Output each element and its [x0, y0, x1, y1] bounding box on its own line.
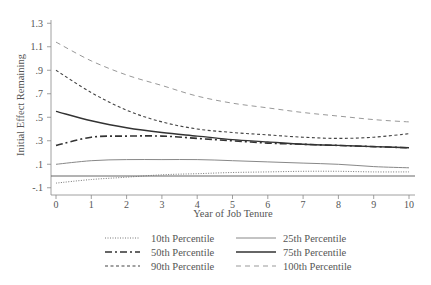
x-axis-title: Year of Job Tenure — [193, 208, 273, 219]
legend-label: 50th Percentile — [151, 247, 215, 258]
x-tick-label: 2 — [124, 199, 129, 210]
legend-item-25th: 25th Percentile — [236, 233, 347, 244]
legend-item-100th: 100th Percentile — [236, 261, 352, 272]
legend-label: 25th Percentile — [283, 233, 347, 244]
series-line-10th-percentile — [56, 171, 409, 183]
legend-item-50th: 50th Percentile — [105, 247, 215, 258]
y-tick-label: .1 — [36, 159, 44, 170]
legend-item-10th: 10th Percentile — [105, 233, 215, 244]
y-tick-label: 1.1 — [31, 41, 44, 52]
series-line-100th-percentile — [56, 42, 409, 122]
y-tick-label: -.1 — [32, 182, 43, 193]
y-tick-label: .3 — [36, 135, 44, 146]
x-tick-label: 1 — [89, 199, 94, 210]
x-tick-label: 9 — [371, 199, 376, 210]
x-tick-label: 0 — [54, 199, 59, 210]
x-tick-label: 7 — [301, 199, 306, 210]
legend-label: 90th Percentile — [151, 261, 215, 272]
y-axis-title: Initial Effect Remaining — [15, 53, 26, 156]
legend-label: 10th Percentile — [151, 233, 215, 244]
legend-label: 75th Percentile — [283, 247, 347, 258]
legend-item-75th: 75th Percentile — [236, 247, 347, 258]
series-line-25th-percentile — [56, 160, 409, 168]
x-tick-label: 10 — [404, 199, 414, 210]
y-tick-label: .7 — [36, 88, 44, 99]
x-tick-label: 8 — [336, 199, 341, 210]
y-tick-label: .9 — [36, 65, 44, 76]
series-line-90th-percentile — [56, 70, 409, 138]
plot-area — [56, 42, 409, 183]
legend-label: 100th Percentile — [283, 261, 352, 272]
axes: -.1.1.3.5.7.91.11.3012345678910 — [31, 18, 416, 210]
series-line-75th-percentile — [56, 111, 409, 147]
legend: 10th Percentile 25th Percentile 50th Per… — [105, 233, 352, 272]
y-tick-label: 1.3 — [31, 18, 44, 29]
y-tick-label: .5 — [36, 112, 44, 123]
x-tick-label: 3 — [159, 199, 164, 210]
line-chart: -.1.1.3.5.7.91.11.3012345678910 Initial … — [0, 0, 431, 285]
legend-item-90th: 90th Percentile — [105, 261, 215, 272]
